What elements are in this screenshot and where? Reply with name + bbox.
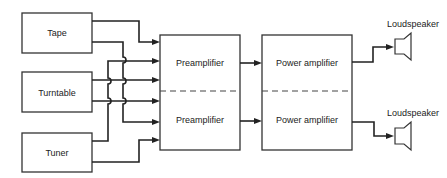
- source-tape: Tape: [22, 13, 92, 53]
- power-amplifier-block: Power amplifier Power amplifier: [262, 35, 352, 150]
- preamp-top-label: Preamplifier: [176, 58, 224, 68]
- loudspeaker-bottom: Loudspeaker: [387, 108, 439, 150]
- speaker-top-label: Loudspeaker: [387, 19, 439, 29]
- turntable-label: Turntable: [38, 88, 76, 98]
- source-wires: [92, 21, 160, 162]
- tuner-label: Tuner: [45, 148, 68, 158]
- power-to-speaker-wires: [352, 44, 394, 139]
- preamplifier-block: Preamplifier Preamplifier: [160, 35, 240, 150]
- power-bottom-label: Power amplifier: [276, 115, 338, 125]
- loudspeaker-top: Loudspeaker: [387, 19, 439, 60]
- speaker-bottom-label: Loudspeaker: [387, 108, 439, 118]
- loudspeaker-icon: [395, 33, 411, 60]
- source-tuner: Tuner: [22, 133, 92, 172]
- stereo-system-block-diagram: Tape Turntable Tuner Preamplifier Preamp…: [0, 0, 447, 178]
- preamp-to-power-wires: [240, 60, 262, 124]
- source-turntable: Turntable: [22, 72, 92, 112]
- tape-label: Tape: [47, 28, 67, 38]
- preamp-bottom-label: Preamplifier: [176, 115, 224, 125]
- power-top-label: Power amplifier: [276, 58, 338, 68]
- loudspeaker-icon: [395, 122, 411, 150]
